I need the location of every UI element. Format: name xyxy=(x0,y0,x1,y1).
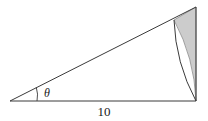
base-length-label: 10 xyxy=(98,104,111,119)
figure-canvas: θ 10 xyxy=(0,0,208,121)
angle-marker-arc xyxy=(36,87,37,101)
hypotenuse-line xyxy=(10,7,196,101)
angle-label: θ xyxy=(44,86,50,100)
geometry-figure: θ 10 xyxy=(0,0,208,121)
shaded-sector-region xyxy=(174,7,196,101)
